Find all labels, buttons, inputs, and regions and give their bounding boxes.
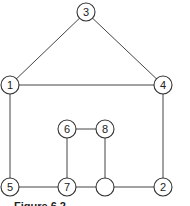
node-2: 2 <box>154 178 172 196</box>
svg-text:5: 5 <box>7 181 13 193</box>
node-1: 1 <box>1 76 19 94</box>
node-5: 5 <box>1 178 19 196</box>
node-3: 3 <box>77 3 95 21</box>
svg-text:1: 1 <box>7 79 13 91</box>
edge-3-4 <box>86 12 163 85</box>
node-6: 6 <box>58 120 76 138</box>
svg-text:8: 8 <box>102 123 108 135</box>
node-blank <box>96 178 114 196</box>
node-4: 4 <box>154 76 172 94</box>
node-8: 8 <box>96 120 114 138</box>
svg-text:4: 4 <box>160 79 166 91</box>
svg-text:2: 2 <box>160 181 166 193</box>
figure-caption: Figure 6.2 <box>14 200 66 206</box>
svg-text:7: 7 <box>64 181 70 193</box>
edges <box>10 12 163 187</box>
node-7: 7 <box>58 178 76 196</box>
edge-3-1 <box>10 12 86 85</box>
graph-diagram: 3 1 4 6 8 5 7 2 <box>0 0 190 206</box>
svg-text:6: 6 <box>64 123 70 135</box>
svg-text:3: 3 <box>83 6 89 18</box>
